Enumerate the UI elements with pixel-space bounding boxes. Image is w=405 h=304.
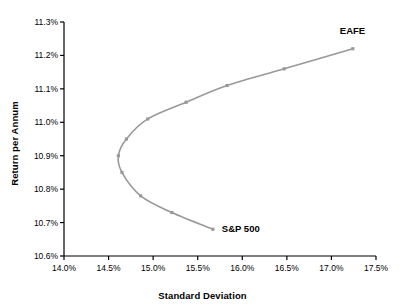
data-point-marker [139,194,142,197]
y-tick-label: 10.7% [14,218,58,228]
y-tick-label: 11.3% [14,17,58,27]
efficient-frontier-curve [118,49,353,230]
data-point-marker [211,228,214,231]
data-point-marker [351,47,354,50]
data-point-marker [226,84,229,87]
x-tick-label: 14.0% [52,263,76,273]
y-tick-label: 11.0% [14,117,58,127]
sp500-series-label: S&P 500 [222,223,260,234]
efficient-frontier-chart: 10.6%10.7%10.8%10.9%11.0%11.1%11.2%11.3%… [0,0,405,304]
plot-area [0,0,405,304]
x-tick-label: 17.0% [319,263,343,273]
y-tick-label: 11.1% [14,84,58,94]
x-tick-label: 15.0% [141,263,165,273]
y-tick-label: 10.8% [14,184,58,194]
y-tick-label: 10.9% [14,151,58,161]
data-point-marker [146,117,149,120]
data-point-marker [283,67,286,70]
x-tick-label: 14.5% [97,263,121,273]
y-axis-title: Return per Annum [9,79,20,209]
x-tick-label: 15.5% [186,263,210,273]
data-point-marker [125,137,128,140]
x-tick-label: 16.0% [230,263,254,273]
data-point-marker [185,101,188,104]
x-tick-label: 17.5% [364,263,388,273]
x-tick-label: 16.5% [275,263,299,273]
y-tick-label: 11.2% [14,50,58,60]
data-point-marker [170,211,173,214]
data-point-marker [117,154,120,157]
data-point-marker [120,171,123,174]
eafe-series-label: EAFE [340,25,365,36]
y-tick-label: 10.6% [14,251,58,261]
x-axis-title: Standard Deviation [0,290,405,301]
